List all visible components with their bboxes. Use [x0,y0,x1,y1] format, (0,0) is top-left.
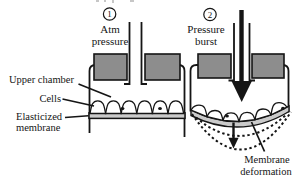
step-1-number: 1 [107,9,112,19]
figure-canvas: 1 Atm pressure [0,0,299,183]
upper-chamber-pointer-line [79,84,112,97]
elasticized-membrane-pointer-line [65,116,89,118]
top-plate-right [145,54,180,80]
cropped-text-remnant [96,0,134,3]
panel-2-title-line1: Pressure [187,23,224,35]
membrane-deformation-pointer-line [252,122,265,152]
diagram-figure: 1 Atm pressure [0,0,299,183]
membrane-deformation-label-line1: Membrane [244,154,290,165]
panel-2-pressure-burst: 2 Pressure burst [187,8,291,149]
panel-2-title-line2: burst [195,35,217,47]
step-2-number: 2 [208,10,213,20]
elasticized-membrane-label-line2: membrane [16,122,61,133]
top-plate-right [252,54,284,78]
cell-nucleus-dot [158,107,162,110]
cell-layer [90,101,184,114]
upper-chamber-label: Upper chamber [9,74,75,85]
cell-nucleus-dot [281,107,285,110]
panel-1-atm-pressure: 1 Atm pressure [89,8,185,137]
elasticized-membrane-label-line1: Elasticized [16,111,63,122]
panel-1-title-line1: Atm [100,23,120,35]
cell-nucleus-dot [121,107,125,110]
top-plate-left [198,54,231,78]
cell-nucleus-dot [225,115,229,118]
top-plate-left [94,54,127,80]
panel-1-title-line2: pressure [92,35,129,47]
cells-label: Cells [39,93,61,104]
membrane-deformation-label-line2: deformation [240,166,292,177]
